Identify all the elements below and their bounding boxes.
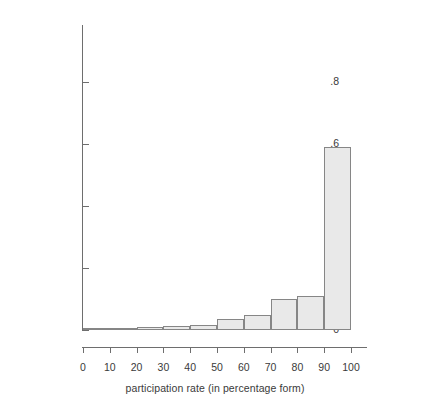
x-axis-tick-label: 100 [342, 361, 360, 373]
x-axis-tick [244, 347, 245, 353]
x-axis-tick [163, 347, 164, 353]
histogram-bar [190, 325, 217, 330]
histogram-bar [244, 315, 271, 331]
x-axis-tick-label: 40 [184, 361, 196, 373]
histogram-figure: proportion in cell 0.2.4.6.8 01020304050… [0, 0, 430, 417]
x-axis-tick-label: 20 [131, 361, 143, 373]
bar-series [83, 25, 351, 330]
x-axis-tick-label: 30 [158, 361, 170, 373]
x-axis-tick [110, 347, 111, 353]
x-axis-tick-label: 50 [211, 361, 223, 373]
x-axis-tick-label: 80 [292, 361, 304, 373]
x-axis-tick-label: 60 [238, 361, 250, 373]
x-axis-tick [271, 347, 272, 353]
x-axis-tick [137, 347, 138, 353]
x-axis-tick [83, 347, 84, 353]
x-axis-tick-label: 90 [318, 361, 330, 373]
x-axis-title-text: participation rate (in percentage form) [126, 382, 305, 394]
plot-area: 0.2.4.6.8 0102030405060708090100 [83, 25, 351, 330]
x-axis-tick-label: 10 [104, 361, 116, 373]
x-axis-tick [351, 347, 352, 353]
x-axis-tick [297, 347, 298, 353]
y-axis-title: proportion in cell [0, 0, 30, 417]
histogram-bar [83, 328, 110, 330]
x-axis-title: participation rate (in percentage form) [0, 382, 430, 394]
histogram-bar [163, 326, 190, 330]
x-axis-tick-label: 0 [80, 361, 86, 373]
y-axis-tick [83, 330, 89, 331]
histogram-bar [110, 328, 137, 330]
histogram-bar [137, 327, 164, 330]
x-axis-tick [217, 347, 218, 353]
histogram-bar [297, 296, 324, 330]
histogram-bar [324, 147, 351, 330]
x-axis-tick-label: 70 [265, 361, 277, 373]
histogram-bar [217, 319, 244, 330]
histogram-bar [271, 299, 298, 330]
x-axis-tick [324, 347, 325, 353]
x-axis-tick [190, 347, 191, 353]
